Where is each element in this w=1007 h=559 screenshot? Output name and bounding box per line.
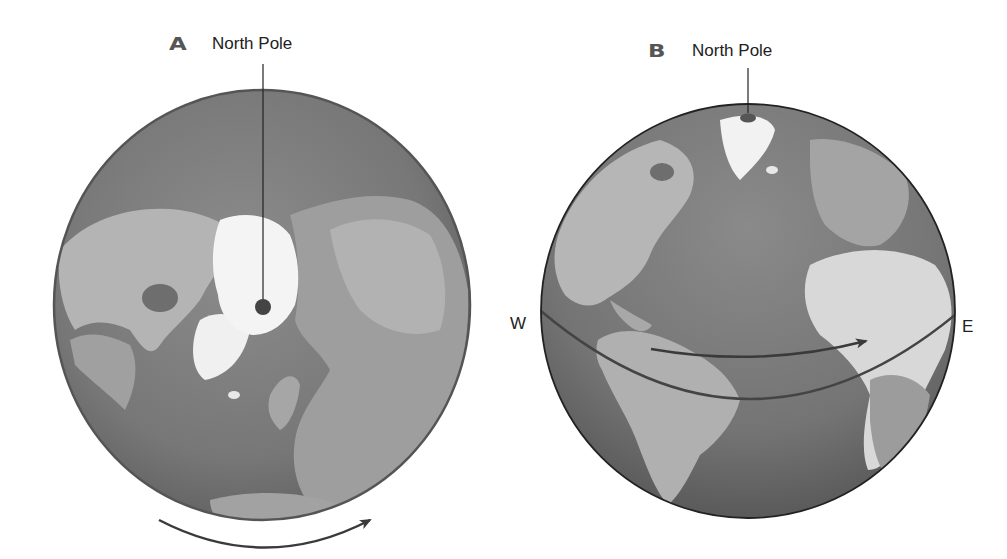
north-pole-b-dot xyxy=(740,114,756,123)
panel-letter-b: B xyxy=(648,41,666,61)
panel-letter-a: A xyxy=(169,34,187,54)
rotation-arrow-a-icon xyxy=(159,520,370,548)
north-pole-label-a: North Pole xyxy=(212,34,292,54)
diagram-canvas xyxy=(0,0,1007,559)
north-pole-a-dot xyxy=(255,299,271,315)
west-label: W xyxy=(510,314,526,334)
north-pole-label-b: North Pole xyxy=(692,41,772,61)
globe-a xyxy=(54,90,470,540)
east-label: E xyxy=(962,317,973,337)
globe-b xyxy=(541,104,955,518)
